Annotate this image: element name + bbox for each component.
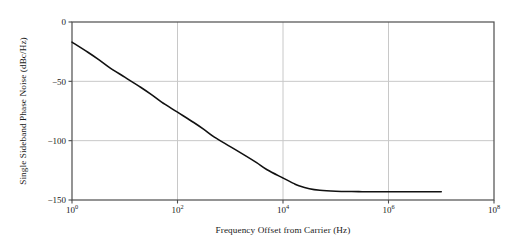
x-tick-exponent: 2	[180, 203, 183, 210]
x-tick-label: 104	[277, 203, 290, 215]
x-tick-label: 100	[66, 203, 78, 215]
x-tick-exponent: 8	[497, 203, 500, 210]
phase-noise-chart-figure: 0−50−100−150 100102104106108 Single Side…	[0, 0, 526, 241]
x-tick-label: 108	[488, 203, 500, 215]
x-axis-title: Frequency Offset from Carrier (Hz)	[216, 225, 351, 235]
y-tick-label: 0	[62, 17, 67, 27]
x-tick-exponent: 4	[286, 203, 290, 210]
y-tick-label: −150	[47, 195, 66, 205]
x-axis-ticks: 100102104106108	[66, 200, 500, 215]
chart-canvas: 0−50−100−150 100102104106108 Single Side…	[0, 0, 526, 241]
x-tick-label: 102	[171, 203, 183, 215]
y-axis-title: Single Sideband Phase Noise (dBc/Hz)	[18, 37, 28, 185]
y-tick-label: −50	[52, 77, 67, 87]
y-axis-ticks: 0−50−100−150	[47, 17, 72, 205]
x-tick-label: 106	[382, 203, 394, 215]
x-tick-exponent: 0	[75, 203, 78, 210]
x-tick-exponent: 6	[391, 203, 394, 210]
y-tick-label: −100	[47, 136, 66, 146]
